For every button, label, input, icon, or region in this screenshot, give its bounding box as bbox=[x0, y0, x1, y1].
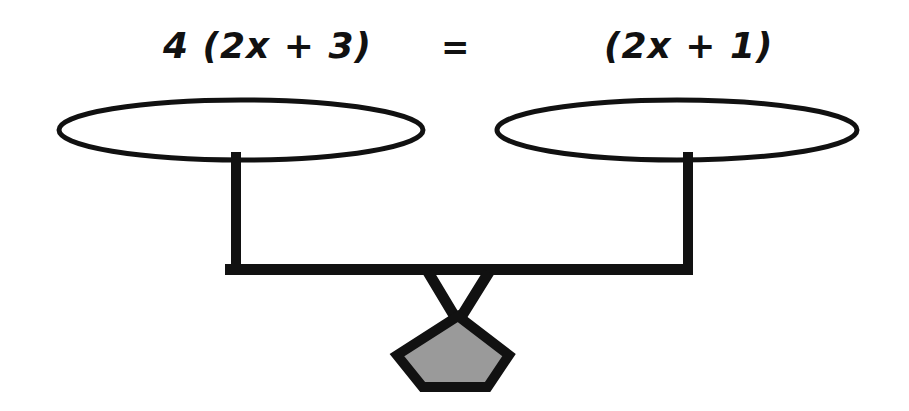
pentagon-base-shape bbox=[397, 316, 509, 387]
left-post-bar bbox=[231, 152, 241, 270]
balance-scale-drawing bbox=[0, 0, 909, 411]
left-pan-ellipse bbox=[59, 100, 423, 160]
balance-scale-figure: 4 (2x + 3) = (2x + 1) bbox=[0, 0, 909, 411]
right-post-bar bbox=[683, 152, 693, 272]
right-pan-ellipse bbox=[497, 100, 857, 160]
beam-bar bbox=[225, 264, 693, 275]
